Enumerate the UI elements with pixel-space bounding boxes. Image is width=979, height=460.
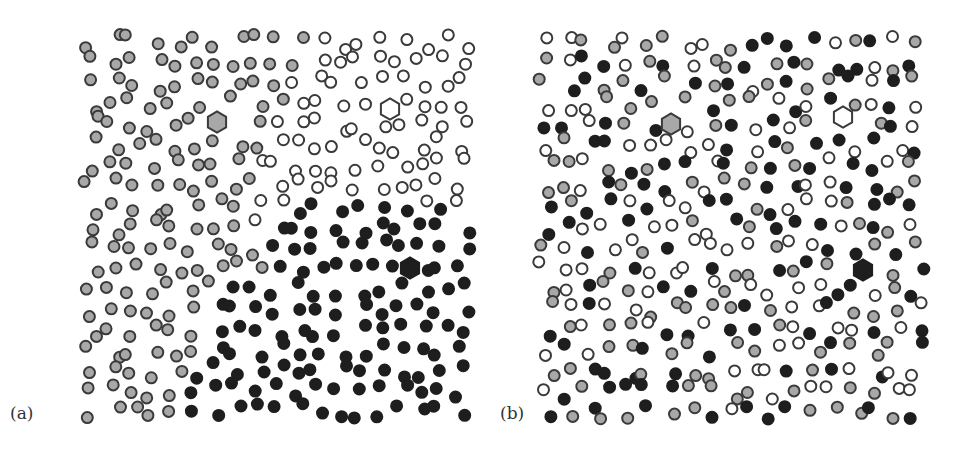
particle-gray: [564, 156, 575, 167]
particle-black: [765, 209, 776, 220]
particle-white: [705, 238, 716, 249]
particle-black: [739, 62, 750, 73]
particle-gray: [854, 218, 865, 229]
particle-black: [771, 223, 782, 234]
particle-gray: [725, 302, 736, 313]
particle-black: [834, 135, 845, 146]
particle-gray: [724, 95, 735, 106]
particle-black: [918, 264, 929, 275]
particle-black: [848, 158, 859, 169]
particle-white: [826, 196, 837, 207]
particle-white: [595, 219, 606, 230]
particle-black: [885, 121, 896, 132]
particle-white: [642, 317, 653, 328]
particle-black: [781, 40, 792, 51]
particle-black: [546, 201, 557, 212]
particle-black: [659, 158, 670, 169]
particle-black: [545, 331, 556, 342]
particle-white: [800, 179, 811, 190]
particle-black: [863, 402, 874, 413]
particle-white: [689, 234, 700, 245]
particle-black: [604, 382, 615, 393]
particle-gray: [687, 215, 698, 226]
particle-black: [883, 102, 894, 113]
particle-black: [579, 73, 590, 84]
particle-white: [620, 60, 631, 71]
particle-black: [718, 158, 729, 169]
particle-gray: [910, 36, 921, 47]
particle-white: [680, 202, 691, 213]
particle-black: [774, 265, 785, 276]
particle-white: [698, 317, 709, 328]
particle-black: [868, 222, 879, 233]
particle-white: [565, 54, 576, 65]
particle-white: [677, 262, 688, 273]
particle-white: [577, 263, 588, 274]
particle-gray: [903, 156, 914, 167]
particle-black: [623, 215, 634, 226]
particle-gray: [749, 346, 760, 357]
particle-white: [906, 370, 917, 381]
particle-white: [801, 193, 812, 204]
particle-gray: [732, 337, 743, 348]
particle-black: [658, 281, 669, 292]
particle-black: [637, 343, 648, 354]
particle-gray: [646, 96, 657, 107]
particle-white: [561, 285, 572, 296]
particle-white: [773, 93, 784, 104]
particle-white: [887, 31, 898, 42]
particle-gray: [669, 409, 680, 420]
particle-white: [533, 256, 544, 267]
particle-gray: [710, 81, 721, 92]
particle-black: [804, 163, 815, 174]
particle-black: [636, 379, 647, 390]
particle-gray: [623, 285, 634, 296]
particle-white: [784, 122, 795, 133]
particle-white: [703, 139, 714, 150]
particle-gray: [707, 299, 718, 310]
particle-black: [868, 133, 879, 144]
particle-gray: [815, 347, 826, 358]
particle-white: [575, 185, 586, 196]
particle-gray: [710, 120, 721, 131]
particle-black: [564, 217, 575, 228]
particle-black: [725, 324, 736, 335]
particle-black: [804, 328, 815, 339]
particle-gray: [680, 302, 691, 313]
particle-black: [811, 138, 822, 149]
particle-gray: [719, 173, 730, 184]
particle-black: [650, 125, 661, 136]
particle-white: [645, 140, 656, 151]
particle-black: [704, 351, 715, 362]
particle-gray: [906, 71, 917, 82]
particle-white: [561, 264, 572, 275]
particle-gray: [625, 103, 636, 114]
hexagon-seed-gray-icon: [662, 114, 680, 135]
particle-white: [752, 146, 763, 157]
particle-white: [617, 32, 628, 43]
particle-black: [826, 364, 837, 375]
particle-gray: [609, 42, 620, 53]
particle-white: [661, 134, 672, 145]
particle-white: [825, 177, 836, 188]
particle-black: [576, 50, 587, 61]
particle-white: [867, 75, 878, 86]
particle-gray: [807, 365, 818, 376]
particle-white: [883, 367, 894, 378]
particle-gray: [789, 385, 800, 396]
particle-black: [765, 163, 776, 174]
particle-white: [666, 220, 677, 231]
particle-black: [600, 118, 611, 129]
particle-gray: [565, 321, 576, 332]
particle-gray: [850, 35, 861, 46]
particle-black: [581, 208, 592, 219]
particle-black: [762, 33, 773, 44]
particle-gray: [889, 282, 900, 293]
particle-gray: [882, 227, 893, 238]
particle-black: [708, 105, 719, 116]
particle-black: [869, 327, 880, 338]
particle-black: [543, 229, 554, 240]
particle-white: [836, 220, 847, 231]
particle-white: [793, 338, 804, 349]
particle-black: [763, 413, 774, 424]
